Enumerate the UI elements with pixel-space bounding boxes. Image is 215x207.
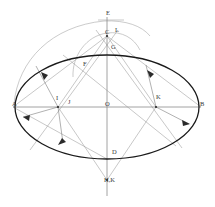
point-label-J: J [68, 98, 71, 105]
large-arc [14, 21, 150, 104]
point-label-group: E L C G F A I J O K B D H,K [12, 9, 205, 183]
point-label-O: O [105, 100, 110, 107]
geometry-figure-canvas: E L C G F A I J O K B D H,K [0, 0, 215, 207]
line-F-through-K [63, 55, 176, 146]
line-B-to-C [107, 36, 201, 107]
point-label-E: E [106, 9, 110, 16]
arrowhead-ray-K-downright [182, 120, 190, 126]
arrowhead-group [23, 70, 190, 145]
point-label-C: C [105, 28, 109, 35]
point-label-B: B [200, 100, 205, 107]
line-L-slant-left [30, 30, 118, 150]
line-I-to-HK [58, 107, 107, 180]
arrowhead-ray-I-upleft [41, 72, 48, 80]
line-A-to-C [13, 36, 107, 107]
ray-I-downright [58, 107, 63, 143]
point-label-G: G [111, 43, 116, 50]
dot-I [57, 106, 59, 108]
line-K-to-HK [107, 107, 156, 180]
point-label-F: F [83, 60, 87, 67]
point-label-A: A [12, 100, 17, 107]
line-I-to-C [58, 36, 107, 107]
dot-K [155, 106, 157, 108]
point-label-K: K [156, 93, 161, 100]
construction-diagram: E L C G F A I J O K B D H,K [0, 0, 215, 207]
point-label-D: D [112, 148, 117, 155]
point-label-I: I [56, 94, 58, 101]
arrowhead-ray-I-downright [58, 138, 66, 145]
point-label-HK: H,K [104, 176, 115, 183]
point-label-L: L [115, 26, 119, 33]
arc-group [14, 21, 150, 104]
